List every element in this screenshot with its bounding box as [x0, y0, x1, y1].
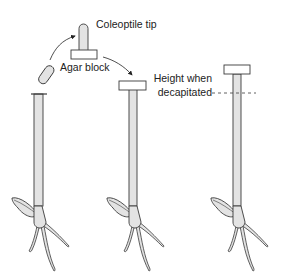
- seedling-1: [12, 64, 69, 271]
- seedling-3-base: [211, 198, 268, 271]
- seedling-2-base: [107, 198, 164, 271]
- tip-on-agar: [71, 24, 97, 59]
- coleoptile-tip: [79, 24, 88, 54]
- label-agar-block: Agar block: [60, 61, 110, 73]
- label-coleoptile-tip: Coleoptile tip: [96, 18, 157, 30]
- agar-block-grown: [224, 65, 250, 74]
- coleoptile-experiment-diagram: Coleoptile tip Agar block Height when de…: [0, 0, 281, 278]
- seedling-2: [107, 81, 164, 271]
- diagram-canvas: [0, 0, 281, 278]
- stem-2: [129, 89, 137, 206]
- stem-1: [34, 94, 43, 206]
- agar-block-top: [71, 50, 97, 59]
- stem-3: [233, 74, 241, 206]
- seedling-3: [211, 65, 268, 271]
- label-height-line-2: decapitated: [150, 86, 212, 98]
- agar-block-stump: [119, 81, 146, 90]
- label-height-line-1: Height when: [150, 72, 212, 84]
- seedling-1-base: [12, 198, 69, 271]
- tilted-coleoptile-tip: [37, 64, 56, 86]
